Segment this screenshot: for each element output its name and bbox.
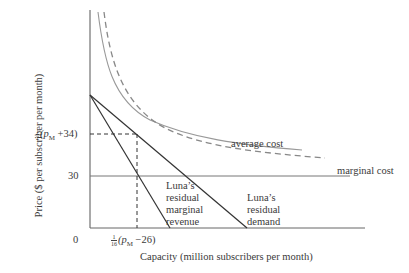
rest: −26) bbox=[133, 234, 156, 245]
average-cost-curve-solid bbox=[98, 12, 302, 150]
x-axis-label: Capacity (million subscribers per month) bbox=[140, 251, 313, 263]
rest: +34) bbox=[55, 128, 78, 139]
d-line: Luna’s bbox=[247, 192, 280, 204]
x-tick-quantity: 116(pM −26) bbox=[111, 234, 156, 250]
expr: (p bbox=[40, 128, 49, 139]
y-tick-monopoly-price: 12(pM +34) bbox=[36, 128, 78, 144]
mr-line: revenue bbox=[166, 216, 203, 228]
marginal-cost-label: marginal cost bbox=[337, 165, 394, 177]
expr: (p bbox=[118, 234, 127, 245]
origin-label: 0 bbox=[73, 234, 78, 246]
marginal-revenue-label: Luna’s residual marginal revenue bbox=[166, 180, 203, 228]
d-line: demand bbox=[247, 216, 280, 228]
d-line: residual bbox=[247, 204, 280, 216]
frac-den: 16 bbox=[111, 241, 117, 247]
mr-line: marginal bbox=[166, 204, 203, 216]
y-tick-30: 30 bbox=[68, 170, 79, 182]
frac-den: 2 bbox=[36, 135, 39, 141]
y-axis-label: Price ($ per subscriber per month) bbox=[33, 56, 44, 236]
mr-line: residual bbox=[166, 192, 203, 204]
frac-num: 1 bbox=[111, 234, 117, 241]
average-cost-label: average cost bbox=[231, 138, 283, 150]
residual-marginal-revenue-line bbox=[90, 95, 170, 228]
frac-num: 1 bbox=[36, 128, 39, 135]
mr-line: Luna’s bbox=[166, 180, 203, 192]
demand-label: Luna’s residual demand bbox=[247, 192, 280, 228]
